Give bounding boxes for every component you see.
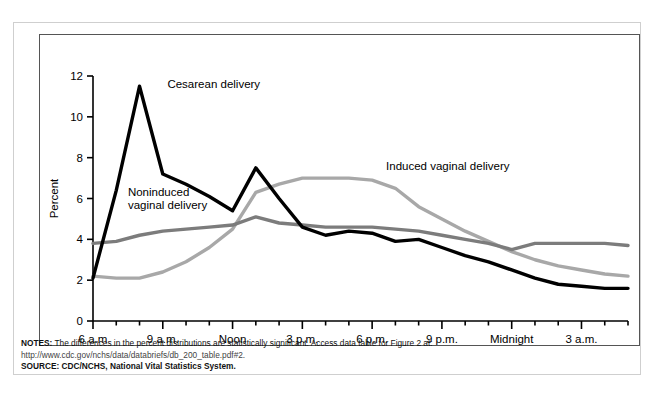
source-row: SOURCE: CDC/NCHS, National Vital Statist… bbox=[21, 361, 631, 373]
y-tick-label: 8 bbox=[77, 152, 83, 164]
series-label-cesarean: Cesarean delivery bbox=[167, 78, 260, 90]
source-text: CDC/NCHS, National Vital Statistics Syst… bbox=[59, 361, 235, 371]
series-label-induced: Induced vaginal delivery bbox=[386, 160, 510, 172]
notes-url[interactable]: http://www.cdc.gov/nchs/data/databriefs/… bbox=[21, 350, 631, 362]
notes-row: NOTES: The differences in the percent di… bbox=[21, 338, 631, 350]
notes-label: NOTES: bbox=[21, 338, 52, 348]
y-tick-label: 0 bbox=[77, 315, 83, 327]
y-axis-title: Percent bbox=[48, 178, 60, 218]
y-tick-label: 10 bbox=[70, 111, 83, 123]
y-tick-label: 4 bbox=[77, 233, 84, 245]
notes-text: The differences in the percent distribut… bbox=[52, 338, 432, 348]
y-tick-label: 2 bbox=[77, 274, 83, 286]
figure-footer: NOTES: The differences in the percent di… bbox=[21, 338, 631, 373]
source-label: SOURCE: bbox=[21, 361, 59, 371]
y-tick-label: 6 bbox=[77, 193, 83, 205]
chart-plot-frame: 0246810126 a.m9 a.m.Noon3 p.m.6 p.m.9 p.… bbox=[39, 34, 640, 346]
figure-outer-frame: 0246810126 a.m9 a.m.Noon3 p.m.6 p.m.9 p.… bbox=[13, 22, 641, 375]
figure-page: 0246810126 a.m9 a.m.Noon3 p.m.6 p.m.9 p.… bbox=[0, 0, 654, 393]
line-chart: 0246810126 a.m9 a.m.Noon3 p.m.6 p.m.9 p.… bbox=[40, 35, 639, 345]
y-tick-label: 12 bbox=[70, 70, 83, 82]
